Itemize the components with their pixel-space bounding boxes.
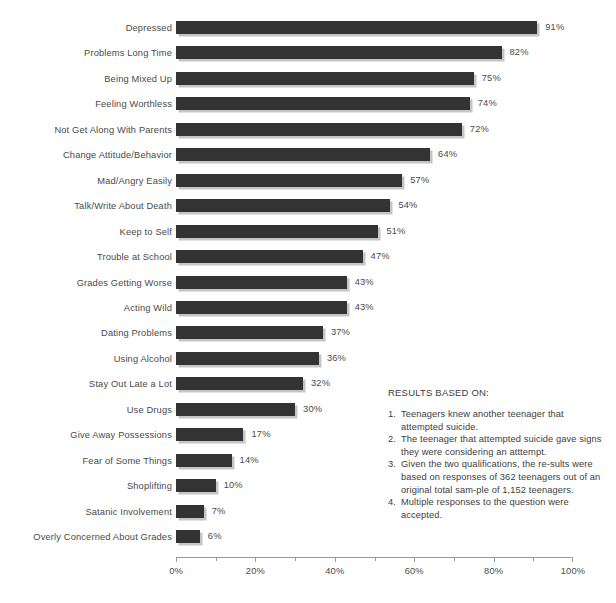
bar-value-label: 64% bbox=[438, 148, 457, 161]
bar bbox=[176, 174, 402, 187]
bar-value-label: 32% bbox=[311, 377, 330, 390]
bar-value-label: 10% bbox=[224, 479, 243, 492]
bar bbox=[176, 72, 474, 85]
axis-minor-tick bbox=[375, 557, 376, 561]
bar-value-label: 75% bbox=[482, 72, 501, 85]
category-label: Give Away Possessions bbox=[2, 428, 172, 442]
chart-row: Talk/Write About Death54% bbox=[0, 199, 616, 224]
bar-value-label: 7% bbox=[212, 505, 226, 518]
note-text: Multiple responses to the question were … bbox=[401, 496, 603, 521]
note-item: 4.Multiple responses to the question wer… bbox=[388, 496, 603, 521]
category-label: Keep to Self bbox=[2, 225, 172, 239]
chart-row: Trouble at School47% bbox=[0, 250, 616, 275]
axis-tick bbox=[572, 557, 573, 562]
category-label: Satanic Involvement bbox=[2, 505, 172, 519]
category-label: Dating Problems bbox=[2, 326, 172, 340]
note-number: 1. bbox=[388, 408, 396, 421]
axis-tick-label: 0% bbox=[151, 565, 201, 577]
axis-tick bbox=[255, 557, 256, 562]
notes-title: RESULTS BASED ON: bbox=[388, 387, 603, 399]
bar bbox=[176, 276, 347, 289]
bar bbox=[176, 250, 363, 263]
bar-value-label: 30% bbox=[303, 403, 322, 416]
category-label: Not Get Along With Parents bbox=[2, 123, 172, 137]
axis-minor-tick bbox=[295, 557, 296, 561]
bar-value-label: 51% bbox=[386, 225, 405, 238]
bar-value-label: 6% bbox=[208, 530, 222, 543]
bar-value-label: 43% bbox=[355, 301, 374, 314]
note-text: The teenager that attempted suicide gave… bbox=[401, 433, 603, 458]
bar bbox=[176, 301, 347, 314]
bar-value-label: 54% bbox=[398, 199, 417, 212]
axis-tick bbox=[414, 557, 415, 562]
notes-list: 1.Teenagers knew another teenager that a… bbox=[388, 408, 603, 521]
category-label: Problems Long Time bbox=[2, 46, 172, 60]
bar bbox=[176, 377, 303, 390]
bar bbox=[176, 148, 430, 161]
bar-value-label: 43% bbox=[355, 276, 374, 289]
chart-row: Not Get Along With Parents72% bbox=[0, 123, 616, 148]
category-label: Use Drugs bbox=[2, 403, 172, 417]
note-number: 3. bbox=[388, 458, 396, 471]
bar-value-label: 74% bbox=[478, 97, 497, 110]
axis-tick bbox=[335, 557, 336, 562]
category-label: Acting Wild bbox=[2, 301, 172, 315]
axis-tick-label: 80% bbox=[469, 565, 519, 577]
note-item: 1.Teenagers knew another teenager that a… bbox=[388, 408, 603, 433]
bar-value-label: 82% bbox=[510, 46, 529, 59]
category-label: Mad/Angry Easily bbox=[2, 174, 172, 188]
bar bbox=[176, 21, 537, 34]
note-item: 2.The teenager that attempted suicide ga… bbox=[388, 433, 603, 458]
chart-row: Mad/Angry Easily57% bbox=[0, 174, 616, 199]
bar-value-label: 47% bbox=[371, 250, 390, 263]
note-number: 2. bbox=[388, 433, 396, 446]
bar bbox=[176, 454, 232, 467]
bar-value-label: 17% bbox=[251, 428, 270, 441]
bar bbox=[176, 123, 462, 136]
category-label: Talk/Write About Death bbox=[2, 199, 172, 213]
bar bbox=[176, 46, 502, 59]
category-label: Overly Concerned About Grades bbox=[2, 530, 172, 544]
axis-minor-tick bbox=[216, 557, 217, 561]
results-notes: RESULTS BASED ON: 1.Teenagers knew anoth… bbox=[388, 387, 603, 521]
axis-tick-label: 60% bbox=[389, 565, 439, 577]
chart-row: Dating Problems37% bbox=[0, 326, 616, 351]
category-label: Using Alcohol bbox=[2, 352, 172, 366]
bar bbox=[176, 225, 378, 238]
axis-minor-tick bbox=[533, 557, 534, 561]
note-number: 4. bbox=[388, 496, 396, 509]
x-axis: 0%20%40%60%80%100% bbox=[176, 557, 573, 587]
bar bbox=[176, 97, 470, 110]
note-text: Teenagers knew another teenager that att… bbox=[401, 408, 603, 433]
bar bbox=[176, 428, 243, 441]
bar-value-label: 37% bbox=[331, 326, 350, 339]
bar-value-label: 91% bbox=[545, 21, 564, 34]
axis-minor-tick bbox=[454, 557, 455, 561]
bar-chart: Depressed91%Problems Long Time82%Being M… bbox=[0, 0, 616, 603]
chart-row: Depressed91% bbox=[0, 21, 616, 46]
bar bbox=[176, 326, 323, 339]
bar bbox=[176, 530, 200, 543]
category-label: Depressed bbox=[2, 21, 172, 35]
bar bbox=[176, 403, 295, 416]
axis-tick bbox=[494, 557, 495, 562]
bar-value-label: 14% bbox=[240, 454, 259, 467]
category-label: Trouble at School bbox=[2, 250, 172, 264]
axis-tick bbox=[176, 557, 177, 562]
bar bbox=[176, 479, 216, 492]
bar-value-label: 72% bbox=[470, 123, 489, 136]
bar bbox=[176, 505, 204, 518]
note-text: Given the two qualifications, the re-sul… bbox=[401, 458, 603, 496]
axis-tick-label: 100% bbox=[548, 565, 598, 577]
chart-row: Feeling Worthless74% bbox=[0, 97, 616, 122]
chart-row: Keep to Self51% bbox=[0, 225, 616, 250]
bar bbox=[176, 352, 319, 365]
bar-value-label: 57% bbox=[410, 174, 429, 187]
chart-row: Being Mixed Up75% bbox=[0, 72, 616, 97]
chart-row: Overly Concerned About Grades6% bbox=[0, 530, 616, 555]
chart-row: Change Attitude/Behavior64% bbox=[0, 148, 616, 173]
category-label: Grades Getting Worse bbox=[2, 276, 172, 290]
category-label: Shoplifting bbox=[2, 479, 172, 493]
chart-row: Grades Getting Worse43% bbox=[0, 276, 616, 301]
category-label: Stay Out Late a Lot bbox=[2, 377, 172, 391]
